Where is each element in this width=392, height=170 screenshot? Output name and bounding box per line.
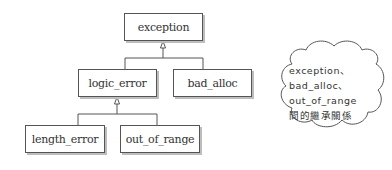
- inheritance-arrow-icon: [115, 97, 120, 104]
- class-box-length-error: length_error: [25, 125, 105, 153]
- class-label-out-of-range: out_of_range: [126, 133, 195, 146]
- callout-line: exception、: [289, 63, 381, 78]
- callout-text: exception、 bad_alloc、 out_of_range 間的繼承關…: [289, 63, 381, 123]
- class-label-exception: exception: [138, 21, 189, 34]
- class-label-length-error: length_error: [32, 133, 98, 146]
- class-box-exception: exception: [124, 13, 203, 41]
- class-label-logic-error: logic_error: [89, 77, 147, 90]
- callout-line: out_of_range: [289, 93, 381, 108]
- class-box-logic-error: logic_error: [78, 69, 157, 97]
- class-label-bad-alloc: bad_alloc: [188, 77, 238, 90]
- class-box-bad-alloc: bad_alloc: [173, 69, 252, 97]
- inheritance-arrow-icon: [161, 41, 166, 48]
- callout-line: 間的繼承關係: [289, 108, 381, 123]
- class-box-out-of-range: out_of_range: [120, 125, 200, 153]
- callout-line: bad_alloc、: [289, 78, 381, 93]
